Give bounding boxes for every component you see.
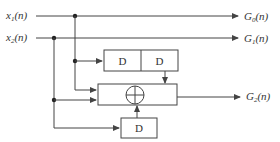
output-label-g0: G0(n)	[244, 10, 269, 24]
x1-to-adder-line	[75, 16, 96, 90]
adder-block	[98, 84, 177, 105]
x2-to-delay-line	[54, 38, 119, 128]
output-label-g1: G1(n)	[244, 32, 269, 46]
delay-chain-block: D D	[104, 50, 178, 71]
delay-top-1-label: D	[119, 55, 127, 67]
delay-bottom-block: D	[121, 118, 157, 138]
input-label-x1: x1(n)	[5, 9, 28, 23]
delay-top-2-label: D	[156, 55, 164, 67]
delay-bottom-label: D	[135, 122, 143, 134]
convolutional-encoder-diagram: x1(n) x2(n) G0(n) G1(n) G2(n) D D D	[0, 0, 280, 142]
input-label-x2: x2(n)	[5, 31, 28, 45]
output-label-g2: G2(n)	[246, 90, 271, 104]
